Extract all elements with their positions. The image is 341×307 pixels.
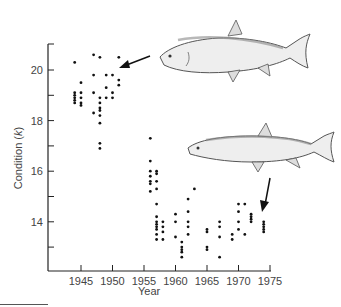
data-point (149, 180, 152, 183)
data-point (237, 203, 240, 206)
data-point (117, 79, 120, 82)
data-point (218, 225, 221, 228)
data-point (218, 256, 221, 259)
data-point (162, 238, 165, 241)
data-point (206, 248, 209, 251)
data-point (111, 74, 114, 77)
data-point (243, 233, 246, 236)
data-point (99, 114, 102, 117)
data-point (162, 231, 165, 234)
data-point (99, 122, 102, 125)
data-point (149, 160, 152, 163)
data-point (155, 203, 158, 206)
data-point (250, 220, 253, 223)
data-point (92, 74, 95, 77)
data-point (250, 218, 253, 221)
data-point (99, 109, 102, 112)
data-point (149, 182, 152, 185)
data-point (99, 96, 102, 99)
y-axis-title: Condition (k) (12, 127, 24, 189)
data-point (149, 170, 152, 173)
arrow-lower (260, 178, 270, 212)
data-point (105, 86, 108, 89)
data-point (206, 228, 209, 231)
y-tick-label: 20 (31, 64, 43, 76)
data-point (180, 251, 183, 254)
data-point (262, 223, 265, 226)
data-point (237, 228, 240, 231)
data-point (73, 61, 76, 64)
x-tick-label: 1960 (163, 275, 187, 287)
data-point (105, 96, 108, 99)
data-point (162, 225, 165, 228)
x-ticks: 1945195019551960196519701975 (69, 265, 282, 287)
data-point (262, 225, 265, 228)
axes: 14161820 1945195019551960196519701975 (31, 44, 282, 287)
data-point (111, 96, 114, 99)
scatter-chart: 14161820 1945195019551960196519701975 Ye… (0, 0, 341, 307)
data-point (262, 231, 265, 234)
data-point (187, 210, 190, 213)
data-point (99, 56, 102, 59)
data-point (206, 246, 209, 249)
data-point (149, 137, 152, 140)
data-point (155, 172, 158, 175)
data-point (149, 175, 152, 178)
data-point (92, 91, 95, 94)
data-point (73, 99, 76, 102)
data-point (117, 84, 120, 87)
y-tick-label: 16 (31, 165, 43, 177)
x-tick-label: 1975 (258, 275, 282, 287)
fish-robust-illustration (160, 20, 310, 82)
data-point (73, 94, 76, 97)
arrow-upper (119, 56, 150, 68)
data-point (80, 91, 83, 94)
data-point (180, 256, 183, 259)
data-point (99, 142, 102, 145)
data-point (111, 91, 114, 94)
data-point (99, 101, 102, 104)
data-point (80, 96, 83, 99)
x-tick-label: 1945 (69, 275, 93, 287)
data-point (187, 220, 190, 223)
x-tick-label: 1965 (195, 275, 219, 287)
data-point (250, 215, 253, 218)
data-point (80, 81, 83, 84)
data-point (80, 104, 83, 107)
data-point (243, 203, 246, 206)
data-point (155, 223, 158, 226)
data-point (262, 220, 265, 223)
x-tick-label: 1950 (100, 275, 124, 287)
data-point (73, 91, 76, 94)
data-point (155, 220, 158, 223)
data-point (231, 238, 234, 241)
data-point (155, 225, 158, 228)
data-point (231, 233, 234, 236)
x-axis-title: Year (138, 285, 161, 297)
x-tick-label: 1970 (226, 275, 250, 287)
data-point (73, 96, 76, 99)
data-point (250, 213, 253, 216)
data-point (80, 101, 83, 104)
y-tick-label: 14 (31, 216, 43, 228)
data-point (180, 241, 183, 244)
data-point (206, 231, 209, 234)
data-point (174, 213, 177, 216)
data-point (99, 147, 102, 150)
data-point (117, 56, 120, 59)
fish-slender-illustration (188, 123, 334, 172)
data-point (193, 188, 196, 191)
data-point (99, 107, 102, 110)
data-point (187, 233, 190, 236)
data-point (237, 220, 240, 223)
data-point (174, 236, 177, 239)
data-point (155, 180, 158, 183)
y-ticks: 14161820 (31, 64, 54, 247)
data-point (155, 238, 158, 241)
data-point (105, 74, 108, 77)
data-point (262, 228, 265, 231)
data-point (92, 53, 95, 56)
data-point (187, 225, 190, 228)
data-point (73, 101, 76, 104)
data-point (155, 215, 158, 218)
